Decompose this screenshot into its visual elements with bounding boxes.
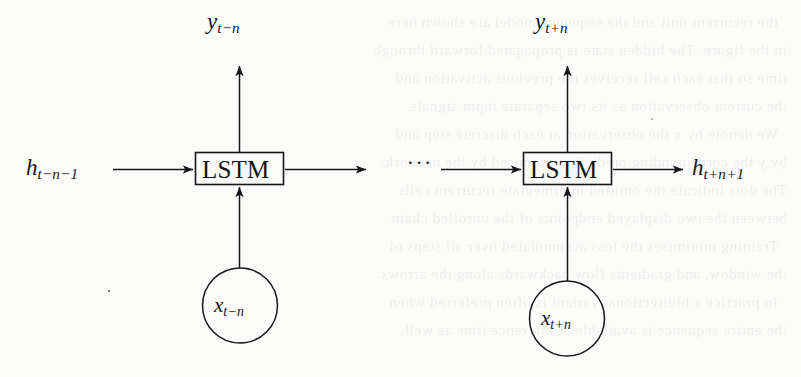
scan-speck [108,290,110,292]
output-label-right-subscript: t+n [545,19,568,36]
input-label-left: xt−n [214,293,244,320]
state-in-label-base: h [26,155,38,180]
lstm-box-right-label: LSTM [530,156,597,184]
input-label-left-base: x [214,293,223,317]
input-label-right: xt+n [541,306,571,333]
output-label-left-base: y [207,9,217,34]
scan-speck [651,118,653,120]
output-label-right: yt+n [535,9,568,37]
output-label-right-base: y [535,9,545,34]
output-label-left-subscript: t−n [217,19,240,36]
input-label-right-base: x [541,306,550,330]
lstm-unrolled-diagram [0,0,801,377]
state-out-label-subscript: t+n+1 [704,165,745,182]
state-in-label-left: ht−n−1 [26,155,78,183]
state-out-label-right: ht+n+1 [692,155,744,183]
input-label-left-subscript: t−n [223,304,244,319]
state-out-label-base: h [692,155,704,180]
state-in-label-subscript: t−n−1 [38,165,79,182]
lstm-box-left-label: LSTM [202,156,269,184]
figure-page: the recurrent unit and the sequence mode… [0,0,801,377]
input-label-right-subscript: t+n [550,317,571,332]
ellipsis-label: ··· [407,152,433,175]
output-label-left: yt−n [207,9,240,37]
